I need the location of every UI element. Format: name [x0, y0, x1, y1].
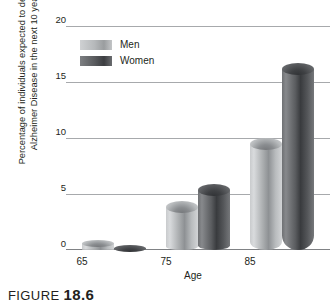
bar-top-ellipse: [114, 245, 146, 252]
bar-top-ellipse: [250, 138, 282, 150]
y-tick-label-5: 5: [38, 183, 66, 193]
legend-label-men: Men: [120, 39, 139, 50]
legend-swatch-men-icon: [80, 40, 112, 50]
chart-legend: Men Women: [80, 38, 154, 70]
legend-item-men: Men: [80, 38, 154, 51]
figure-caption: FIGURE 18.6: [8, 286, 94, 303]
y-tick-label-0: 0: [38, 239, 66, 249]
x-axis-title: Age: [0, 270, 330, 281]
figure-caption-number: 18.6: [64, 286, 95, 303]
legend-swatch-women-icon: [80, 56, 112, 66]
y-tick-label-15: 15: [38, 71, 66, 81]
bar-men-75: [166, 207, 198, 250]
x-tick-label-85: 85: [220, 256, 280, 267]
bar-body: [166, 207, 198, 250]
bar-top-ellipse: [82, 240, 114, 247]
gridline-20: [66, 26, 330, 27]
x-tick-label-65: 65: [52, 256, 112, 267]
y-axis-title-line-1: Percentage of individuals expected to de…: [17, 0, 27, 164]
legend-label-women: Women: [120, 55, 154, 66]
legend-item-women: Women: [80, 54, 154, 67]
bar-women-75: [198, 190, 230, 250]
bar-men-65: [82, 243, 114, 250]
bar-top-ellipse: [282, 63, 314, 75]
bar-women-85: [282, 69, 314, 250]
bar-body: [250, 144, 282, 250]
bar-women-65: [114, 248, 146, 250]
bar-top-ellipse: [198, 184, 230, 196]
y-tick-label-10: 10: [38, 127, 66, 137]
bar-men-85: [250, 144, 282, 250]
bar-body: [198, 190, 230, 250]
x-axis-title-text: Age: [184, 270, 202, 281]
figure-caption-prefix: FIGURE: [8, 288, 60, 303]
x-tick-label-75: 75: [136, 256, 196, 267]
y-axis-title-line-2: Alzheimer Disease in the next 10 years: [28, 0, 40, 175]
y-tick-label-20: 20: [38, 15, 66, 25]
bar-body: [282, 69, 314, 250]
bar-top-ellipse: [166, 201, 198, 213]
y-axis-title: Percentage of individuals expected to de…: [17, 0, 40, 175]
